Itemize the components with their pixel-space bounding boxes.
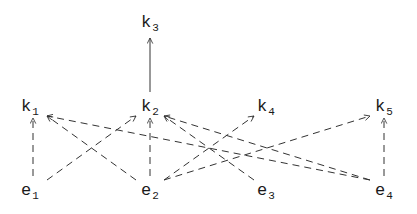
node-k4: k4 [257, 98, 275, 115]
node-e2: e2 [141, 182, 159, 199]
node-k5: k5 [375, 98, 393, 115]
node-k1: k1 [21, 98, 39, 115]
diagram-canvas [0, 0, 417, 214]
edges-layer [33, 38, 384, 180]
node-k3: k3 [141, 14, 159, 31]
node-e4: e4 [375, 182, 393, 199]
node-e1: e1 [21, 182, 39, 199]
node-e3: e3 [257, 182, 275, 199]
node-k2: k2 [141, 98, 159, 115]
